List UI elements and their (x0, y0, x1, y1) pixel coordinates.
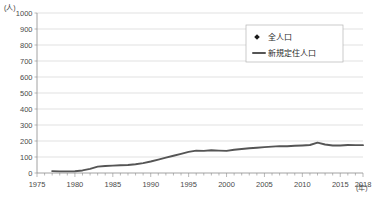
y-tick-label: 700 (20, 57, 33, 66)
chart-legend: 全人口 新規定住人口 (246, 25, 343, 62)
y-tick-label: 300 (20, 121, 33, 130)
y-tick-label: 200 (20, 137, 33, 146)
x-tick-label: 1985 (104, 180, 121, 189)
chart-container: 01002003004005006007008009001000 1975198… (0, 0, 377, 199)
x-axis-unit-label: (年) (356, 183, 368, 192)
y-tick-label: 1000 (16, 9, 33, 18)
x-tick-label: 2000 (218, 180, 235, 189)
x-tick-label: 1995 (180, 180, 197, 189)
legend-label-total-population: 全人口 (268, 32, 292, 42)
x-tick-label: 1980 (67, 180, 84, 189)
y-tick-label: 0 (28, 169, 32, 178)
x-tick-label: 1975 (29, 180, 46, 189)
x-tick-label: 2010 (294, 180, 311, 189)
y-axis-unit-label: (人) (4, 4, 16, 12)
x-tick-label: 1990 (142, 180, 159, 189)
y-tick-label: 100 (20, 153, 33, 162)
y-tick-label: 900 (20, 25, 33, 34)
x-tick-label: 2005 (256, 180, 273, 189)
y-tick-label: 800 (20, 41, 33, 50)
y-tick-label: 400 (20, 105, 33, 114)
x-tick-label: 2015 (332, 180, 349, 189)
y-tick-label: 500 (20, 89, 33, 98)
population-chart: 01002003004005006007008009001000 1975198… (0, 0, 377, 199)
legend-label-new-settlers: 新規定住人口 (268, 48, 316, 58)
y-tick-label: 600 (20, 73, 33, 82)
